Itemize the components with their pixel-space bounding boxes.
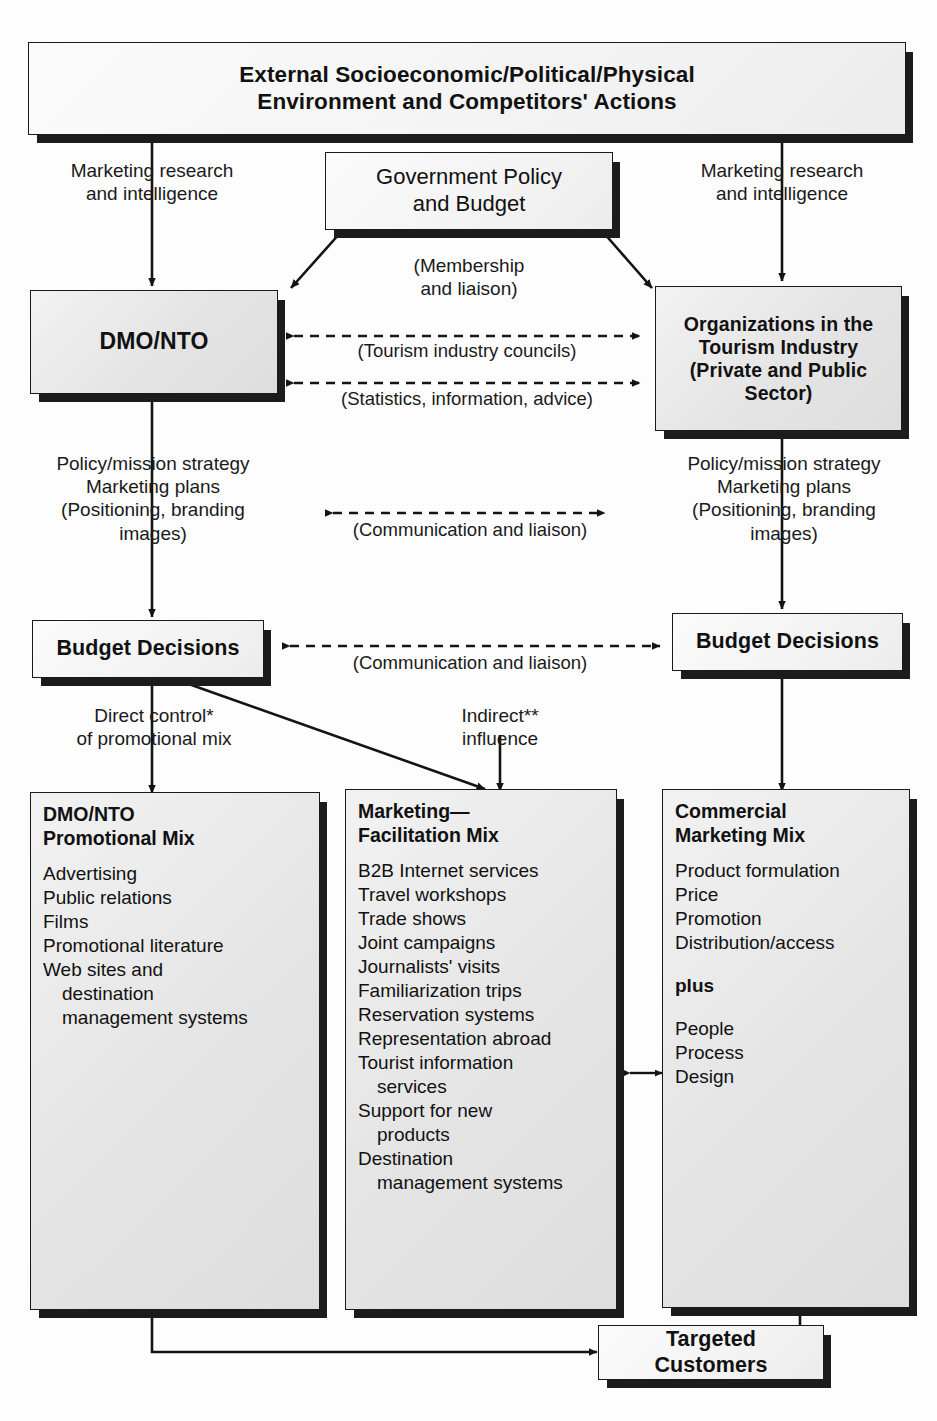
list-item: Process — [675, 1041, 840, 1065]
label-statistics-information-advice: (Statistics, information, advice) — [302, 388, 632, 411]
commercial-mix-head-2: Marketing Mix — [675, 824, 805, 848]
list-item: management systems — [43, 1006, 248, 1030]
list-item: Representation abroad — [358, 1027, 563, 1051]
label-communication-liaison-lower: (Communication and liaison) — [320, 652, 620, 675]
box-external-environment: External Socioeconomic/Political/Physica… — [28, 42, 906, 135]
organizations-line-1: Organizations in the — [684, 313, 873, 336]
commercial-mix-list: Product formulation Price Promotion Dist… — [675, 859, 840, 1089]
promotional-mix-list: Advertising Public relations Films Promo… — [43, 862, 248, 1030]
dmo-nto-label: DMO/NTO — [100, 328, 209, 355]
list-item: Web sites and — [43, 958, 248, 982]
list-item: Familiarization trips — [358, 979, 563, 1003]
list-item: B2B Internet services — [358, 859, 563, 883]
list-item: services — [358, 1075, 563, 1099]
promotional-mix-head-1: DMO/NTO — [43, 803, 195, 827]
organizations-line-2: Tourism Industry — [684, 336, 873, 359]
list-item: People — [675, 1017, 840, 1041]
label-marketing-research-left: Marketing research and intelligence — [24, 159, 280, 205]
list-item: Films — [43, 910, 248, 934]
list-item: Price — [675, 883, 840, 907]
list-item: plus — [675, 974, 840, 998]
list-item: Reservation systems — [358, 1003, 563, 1027]
label-policy-mission-left: Policy/mission strategy Marketing plans … — [10, 452, 296, 545]
label-tourism-industry-councils: (Tourism industry councils) — [317, 340, 617, 363]
list-item: Advertising — [43, 862, 248, 886]
list-item: Distribution/access — [675, 931, 840, 955]
box-budget-decisions-right: Budget Decisions — [672, 613, 903, 671]
list-item: management systems — [358, 1171, 563, 1195]
budget-right-label: Budget Decisions — [696, 629, 879, 654]
label-policy-mission-right: Policy/mission strategy Marketing plans … — [641, 452, 927, 545]
list-item: Trade shows — [358, 907, 563, 931]
list-item: Support for new — [358, 1099, 563, 1123]
list-item: products — [358, 1123, 563, 1147]
box-targeted-customers: Targeted Customers — [598, 1325, 824, 1380]
commercial-mix-head-1: Commercial — [675, 800, 805, 824]
box-dmo-nto: DMO/NTO — [30, 290, 278, 394]
budget-left-label: Budget Decisions — [56, 636, 239, 661]
list-item: Tourist information — [358, 1051, 563, 1075]
external-line-1: External Socioeconomic/Political/Physica… — [239, 62, 695, 89]
facilitation-mix-head-1: Marketing— — [358, 800, 499, 824]
box-organizations-tourism-industry: Organizations in the Tourism Industry (P… — [655, 286, 902, 431]
label-membership-and-liaison: (Membership and liaison) — [352, 254, 586, 300]
box-marketing-facilitation-mix: Marketing— Facilitation Mix B2B Internet… — [345, 789, 617, 1310]
list-item: Joint campaigns — [358, 931, 563, 955]
targeted-customers-label: Targeted Customers — [607, 1327, 815, 1378]
list-item: Travel workshops — [358, 883, 563, 907]
label-communication-liaison-upper: (Communication and liaison) — [320, 519, 620, 542]
promotional-mix-head-2: Promotional Mix — [43, 827, 195, 851]
arrow-government-to-organizations — [603, 232, 652, 288]
government-line-1: Government Policy — [376, 164, 562, 191]
box-commercial-marketing-mix: Commercial Marketing Mix Product formula… — [662, 789, 910, 1308]
list-item: Public relations — [43, 886, 248, 910]
box-government-policy: Government Policy and Budget — [325, 152, 613, 230]
list-item: Design — [675, 1065, 840, 1089]
box-dmo-nto-promotional-mix: DMO/NTO Promotional Mix Advertising Publ… — [30, 792, 320, 1310]
facilitation-mix-head-2: Facilitation Mix — [358, 824, 499, 848]
label-indirect-influence: Indirect** influence — [424, 704, 576, 750]
list-item: Promotion — [675, 907, 840, 931]
arrow-promotional-mix-to-customers — [152, 1310, 597, 1352]
list-item: Product formulation — [675, 859, 840, 883]
box-budget-decisions-left: Budget Decisions — [32, 620, 264, 678]
list-item: Journalists' visits — [358, 955, 563, 979]
label-marketing-research-right: Marketing research and intelligence — [654, 159, 910, 205]
list-item: Destination — [358, 1147, 563, 1171]
list-item: Promotional literature — [43, 934, 248, 958]
facilitation-mix-list: B2B Internet services Travel workshops T… — [358, 859, 563, 1195]
external-line-2: Environment and Competitors' Actions — [239, 89, 695, 116]
diagram-canvas: External Socioeconomic/Political/Physica… — [0, 0, 937, 1421]
arrow-government-to-dmo — [291, 232, 341, 288]
list-item: destination — [43, 982, 248, 1006]
label-direct-control: Direct control* of promotional mix — [14, 704, 294, 750]
organizations-line-4: Sector) — [684, 382, 873, 405]
organizations-line-3: (Private and Public — [684, 359, 873, 382]
government-line-2: and Budget — [376, 191, 562, 218]
